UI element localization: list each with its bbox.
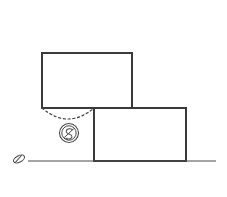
- dashed-arc-path: [42, 108, 94, 119]
- mechanics-diagram: [0, 0, 227, 197]
- center-of-gravity-icon: [60, 124, 79, 143]
- figure-canvas: [0, 0, 227, 197]
- lower-block-rect: [94, 108, 186, 161]
- ground-marker-icon: [12, 153, 26, 164]
- upper-block-rect: [42, 53, 132, 108]
